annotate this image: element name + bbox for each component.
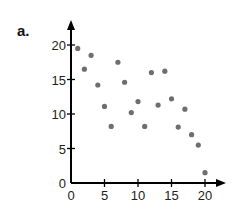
data-point [102,104,107,109]
data-point [82,67,87,72]
scatter-chart: 0510152005101520 [0,0,236,210]
x-tick-label: 10 [131,188,145,203]
data-point [189,132,194,137]
data-point [89,53,94,58]
ticks: 0510152005101520 [52,38,213,203]
data-point [162,69,167,74]
data-point [169,96,174,101]
x-tick-label: 0 [67,188,74,203]
y-tick-label: 20 [52,38,66,53]
data-point [149,70,154,75]
y-tick-label: 10 [52,107,66,122]
y-axis-arrow-icon [67,20,75,30]
y-tick-label: 5 [59,142,66,157]
data-points [75,46,208,175]
data-point [75,46,80,51]
data-point [196,142,201,147]
data-point [202,170,207,175]
data-point [115,60,120,65]
data-point [156,102,161,107]
x-tick-label: 20 [198,188,212,203]
y-tick-label: 15 [52,73,66,88]
data-point [142,124,147,129]
x-tick-label: 15 [164,188,178,203]
data-point [135,99,140,104]
y-tick-label: 0 [59,176,66,191]
data-point [129,110,134,115]
x-axis-arrow-icon [216,179,226,187]
data-point [95,82,100,87]
data-point [176,125,181,130]
data-point [122,80,127,85]
x-tick-label: 5 [101,188,108,203]
data-point [182,107,187,112]
axes [67,20,226,187]
data-point [109,124,114,129]
